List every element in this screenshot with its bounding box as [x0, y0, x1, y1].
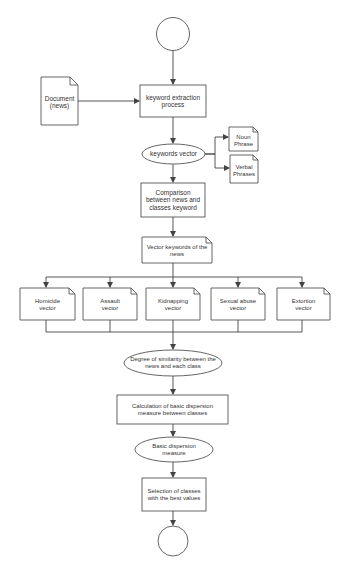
flowchart-canvas — [0, 0, 349, 573]
start-node — [157, 18, 190, 51]
basic-dispersion-node — [135, 437, 213, 462]
kidnapping-vector-node — [146, 288, 200, 320]
verbal-phrases-node — [230, 155, 258, 183]
keywords-vector-node — [142, 144, 205, 164]
comparison-node — [141, 183, 205, 217]
homicide-vector-node — [20, 288, 75, 320]
selection-node — [142, 478, 206, 511]
degree-similarity-node — [124, 350, 222, 376]
sexual-abuse-vector-node — [211, 288, 265, 320]
calculation-node — [117, 395, 228, 424]
noun-phrase-node — [229, 127, 258, 151]
keyword-extraction-node — [140, 85, 206, 117]
assault-vector-node — [83, 288, 137, 320]
document-node — [41, 77, 78, 125]
vector-keywords-node — [142, 237, 212, 263]
extortion-vector-node — [277, 288, 330, 320]
end-node — [158, 526, 188, 556]
